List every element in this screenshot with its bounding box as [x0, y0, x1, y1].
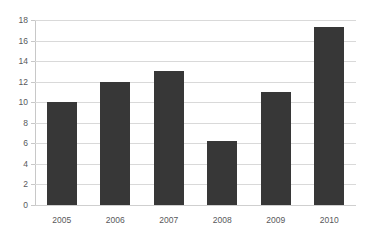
y-axis-tick-label: 18 — [19, 16, 28, 25]
y-axis-tick-label: 8 — [23, 119, 28, 128]
bar — [314, 27, 344, 205]
gridline — [35, 61, 356, 62]
y-axis-tick-mark — [31, 82, 35, 83]
gridline — [35, 82, 356, 83]
y-axis-tick-mark — [31, 143, 35, 144]
gridline — [35, 123, 356, 124]
bar — [100, 82, 130, 205]
gridline — [35, 164, 356, 165]
x-axis-tick-label: 2010 — [309, 216, 349, 225]
bar — [47, 102, 77, 205]
bar — [261, 92, 291, 205]
gridline — [35, 20, 356, 21]
y-axis-tick-labels: 024681012141618 — [0, 0, 28, 243]
y-axis-tick-mark — [31, 164, 35, 165]
gridline — [35, 184, 356, 185]
y-axis-tick-mark — [31, 102, 35, 103]
gridline — [35, 205, 356, 206]
y-axis-tick-mark — [31, 205, 35, 206]
y-axis-tick-label: 4 — [23, 160, 28, 169]
gridline — [35, 41, 356, 42]
y-axis-tick-label: 12 — [19, 78, 28, 87]
bar — [154, 71, 184, 205]
x-axis-tick-label: 2006 — [95, 216, 135, 225]
bar-chart: 024681012141618 200520062007200820092010 — [0, 0, 369, 243]
y-axis-tick-mark — [31, 20, 35, 21]
x-axis-tick-label: 2005 — [42, 216, 82, 225]
y-axis-tick-mark — [31, 123, 35, 124]
y-axis-tick-label: 2 — [23, 180, 28, 189]
y-axis-tick-mark — [31, 41, 35, 42]
y-axis-tick-mark — [31, 184, 35, 185]
bar — [207, 141, 237, 205]
y-axis-tick-label: 10 — [19, 98, 28, 107]
plot-area — [35, 20, 356, 205]
y-axis-tick-label: 6 — [23, 139, 28, 148]
gridline — [35, 102, 356, 103]
y-axis-tick-label: 16 — [19, 37, 28, 46]
x-axis-tick-label: 2009 — [256, 216, 296, 225]
y-axis-tick-label: 0 — [23, 201, 28, 210]
y-axis-tick-mark — [31, 61, 35, 62]
x-axis-tick-label: 2008 — [202, 216, 242, 225]
y-axis-tick-label: 14 — [19, 57, 28, 66]
gridline — [35, 143, 356, 144]
x-axis-tick-label: 2007 — [149, 216, 189, 225]
